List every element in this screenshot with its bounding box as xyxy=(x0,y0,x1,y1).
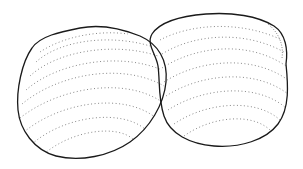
left-shell xyxy=(20,33,164,154)
left-shell-outline xyxy=(18,26,167,158)
right-shell-outline xyxy=(150,14,287,147)
clam-shells-illustration xyxy=(0,0,303,169)
right-shell xyxy=(160,24,288,136)
